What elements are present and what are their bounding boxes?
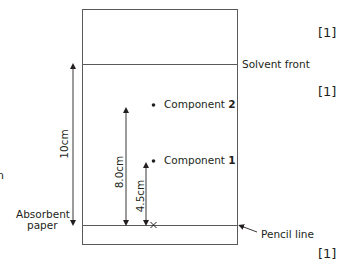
component-1-label: Component 1 <box>164 154 236 166</box>
component-2-spot <box>152 103 156 107</box>
solvent-distance-label: 10cm <box>58 126 70 162</box>
mark-allocation-2: [1] <box>318 84 336 99</box>
component-1-spot <box>152 159 156 163</box>
edge-text-fragment: n <box>0 170 4 182</box>
pencil-line-label: Pencil line <box>261 228 314 240</box>
mark-allocation-3: [1] <box>318 246 336 261</box>
component-2-label: Component 2 <box>164 98 236 110</box>
absorbent-paper <box>83 10 238 245</box>
component-2-number: 2 <box>228 98 235 110</box>
component-2-text: Component <box>164 98 228 110</box>
component-1-distance-label: 4.5cm <box>134 176 146 216</box>
component-1-text: Component <box>164 154 228 166</box>
mark-allocation-1: [1] <box>318 25 336 40</box>
solvent-front-label: Solvent front <box>242 58 310 70</box>
component-2-distance-label: 8.0cm <box>113 152 125 192</box>
absorbent-paper-label-line2: paper <box>27 219 58 231</box>
pencil-line-pointer <box>241 226 257 232</box>
component-1-number: 1 <box>228 154 235 166</box>
